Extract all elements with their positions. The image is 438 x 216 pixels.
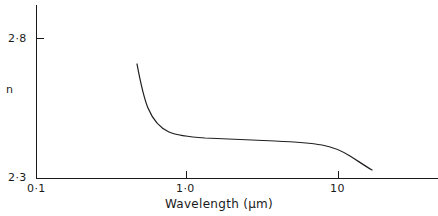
refractive-index-chart: 2·8 2·3 0·1 1·0 10 n Wavelength (μm) (0, 0, 438, 216)
y-tick-label-upper: 2·8 (8, 33, 27, 44)
y-axis-title: n (6, 84, 13, 95)
plot-area (0, 0, 438, 216)
x-tick-label-left: 0·1 (27, 183, 46, 194)
x-tick-label-mid: 1·0 (176, 183, 195, 194)
y-tick-label-lower: 2·3 (8, 172, 27, 183)
dispersion-curve (137, 64, 372, 170)
x-axis-title: Wavelength (μm) (0, 198, 438, 210)
x-tick-label-right: 10 (330, 183, 345, 194)
